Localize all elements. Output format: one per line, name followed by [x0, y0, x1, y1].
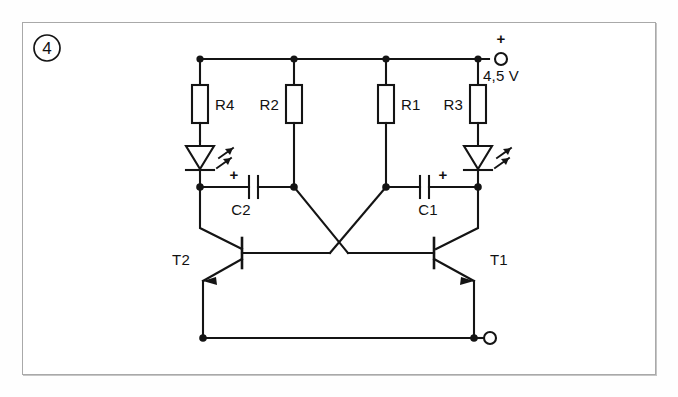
resistor-r3: R3	[443, 59, 486, 141]
resistor-r2-label: R2	[259, 96, 279, 113]
resistor-r4: R4	[192, 59, 235, 141]
led-right-emission-arrows	[495, 148, 511, 168]
capacitor-c2-polarity: +	[230, 166, 239, 183]
circuit-diagram: 4 + 4,5 V R4	[0, 0, 678, 397]
resistor-r1: R1	[378, 59, 421, 187]
transistor-t2-label: T2	[172, 251, 190, 268]
figure-root: 4 + 4,5 V R4	[0, 0, 678, 397]
capacitor-c2: + C2	[196, 166, 298, 218]
resistor-r1-label: R1	[401, 96, 421, 113]
figure-number-text: 4	[42, 39, 51, 58]
capacitor-c1-label: C1	[418, 201, 438, 218]
capacitor-c1: + C1	[382, 166, 482, 218]
resistor-r3-label: R3	[443, 96, 463, 113]
supply-voltage-label: 4,5 V	[483, 67, 519, 84]
transistor-t1-label: T1	[490, 251, 508, 268]
top-supply-rail	[196, 55, 489, 62]
resistor-r2: R2	[259, 59, 302, 187]
capacitor-c2-label: C2	[231, 201, 251, 218]
junction-dot-t2-emitter	[199, 334, 207, 342]
positive-polarity-label: +	[497, 30, 506, 47]
led-right	[464, 141, 511, 187]
resistor-r4-label: R4	[215, 96, 235, 113]
negative-terminal[interactable]	[484, 332, 496, 344]
cross-coupling-wires	[294, 187, 386, 253]
positive-terminal[interactable]: + 4,5 V	[483, 30, 519, 84]
bottom-ground-rail	[199, 334, 483, 342]
led-left	[186, 141, 233, 187]
led-left-emission-arrows	[217, 148, 233, 168]
capacitor-c1-polarity: +	[439, 166, 448, 183]
figure-number-badge: 4	[34, 35, 60, 61]
transistor-t2: T2	[172, 187, 330, 338]
